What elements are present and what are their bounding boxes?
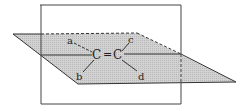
- substituent-a-label: a: [67, 35, 73, 46]
- carbon-1-label: C: [92, 48, 101, 62]
- substituent-b-label: b: [76, 71, 82, 82]
- double-bond-label: =: [103, 48, 112, 61]
- horizontal-plane: [13, 33, 236, 84]
- ethylene-plane-diagram: C = C a b c d: [0, 0, 248, 111]
- carbon-2-label: C: [113, 48, 122, 62]
- substituent-d-label: d: [138, 71, 145, 82]
- substituent-c-label: c: [128, 34, 134, 45]
